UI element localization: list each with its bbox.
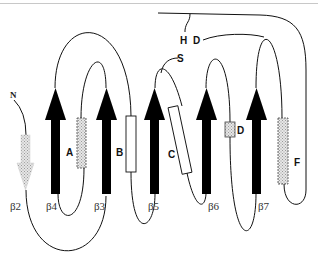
strand-b6	[196, 88, 217, 194]
annotation-H: H	[180, 35, 187, 46]
loop-b5-C	[155, 69, 182, 106]
helix-B	[126, 116, 136, 172]
n-terminal-loop	[14, 100, 26, 135]
strand-label-b7: β7	[258, 200, 270, 212]
strand-b7	[246, 88, 267, 194]
helix-label-C: C	[168, 149, 175, 160]
helix-label-A: A	[66, 147, 73, 158]
S-pointer	[161, 58, 178, 73]
strand-label-b2: β2	[10, 200, 21, 212]
strand-b5	[144, 88, 165, 194]
helix-label-F: F	[294, 157, 300, 168]
strand-label-b6: β6	[208, 200, 220, 212]
loop-b4-A	[58, 168, 84, 215]
D-pointer	[203, 34, 264, 40]
strand-label-b4: β4	[46, 200, 58, 212]
strand-b2	[17, 135, 34, 190]
H-pointer	[185, 14, 190, 32]
strand-label-b3: β3	[94, 200, 106, 212]
helix-C	[168, 106, 192, 175]
helix-label-D: D	[237, 125, 244, 136]
helix-F	[278, 118, 288, 184]
topology-diagram: N β2 β4 A β3 B β5 S C	[0, 0, 318, 264]
n-terminus-label: N	[10, 90, 17, 100]
annotation-D: D	[193, 35, 200, 46]
strand-b4	[45, 88, 66, 194]
strand-b3	[96, 88, 117, 194]
strand-label-b5: β5	[148, 200, 160, 212]
helix-D	[225, 122, 235, 137]
helix-label-B: B	[116, 147, 123, 158]
loop-b4-B	[55, 33, 131, 116]
annotation-S: S	[177, 53, 184, 64]
helix-A	[77, 118, 86, 168]
